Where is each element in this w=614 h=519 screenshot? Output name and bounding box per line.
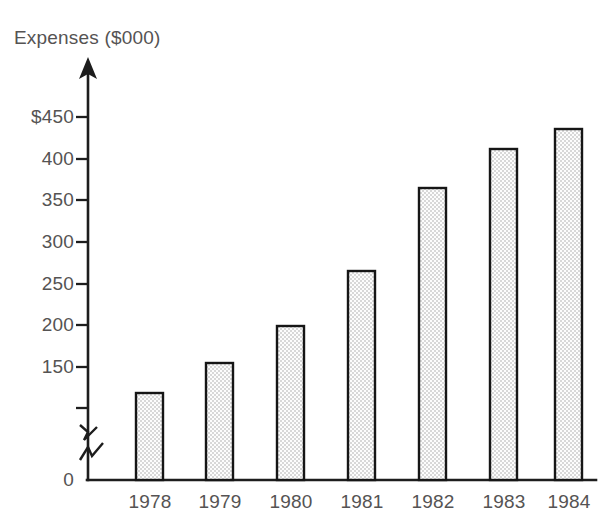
x-tick-label: 1983 — [482, 491, 525, 513]
x-tick-label: 1979 — [198, 491, 241, 513]
bar-chart: Expenses ($000) — [0, 0, 614, 519]
x-axis-labels: 1978 1979 1980 1981 1982 1983 1984 — [0, 0, 614, 519]
x-tick-label: 1981 — [340, 491, 383, 513]
x-tick-label: 1980 — [269, 491, 312, 513]
x-tick-label: 1978 — [128, 491, 171, 513]
x-tick-label: 1984 — [547, 491, 590, 513]
x-tick-label: 1982 — [411, 491, 454, 513]
